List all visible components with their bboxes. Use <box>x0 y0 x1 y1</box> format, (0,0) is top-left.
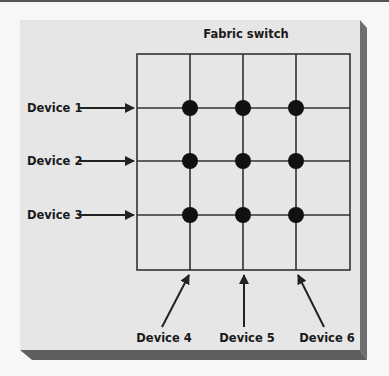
fabric-switch-diagram: Fabric switch Device 1 Device 2 Device 3 <box>0 0 389 376</box>
device-4-label: Device 4 <box>136 331 191 345</box>
crosspoint-dot <box>235 207 251 223</box>
crosspoint-dot <box>235 100 251 116</box>
crosspoint-dot <box>288 207 304 223</box>
device-2-label: Device 2 <box>27 154 82 168</box>
crosspoint-dot <box>288 100 304 116</box>
panel-shadow-right <box>360 20 367 360</box>
crosspoint-dot <box>182 153 198 169</box>
crosspoint-dot <box>235 153 251 169</box>
crosspoint-dot <box>182 207 198 223</box>
fabric-switch-title: Fabric switch <box>203 27 289 41</box>
crosspoint-dot <box>182 100 198 116</box>
device-6-label: Device 6 <box>299 331 354 345</box>
panel-shadow-bottom <box>20 350 367 360</box>
device-5-label: Device 5 <box>219 331 274 345</box>
crosspoint-dot <box>288 153 304 169</box>
device-1-label: Device 1 <box>27 101 82 115</box>
device-3-label: Device 3 <box>27 208 82 222</box>
